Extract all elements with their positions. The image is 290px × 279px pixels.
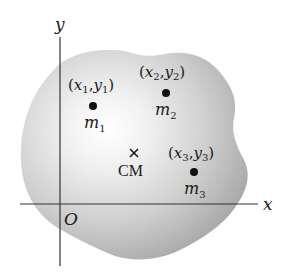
origin-label: O xyxy=(64,209,78,229)
mass-dot-2 xyxy=(162,89,170,97)
x-axis-label: x xyxy=(263,194,273,214)
cm-label: CM xyxy=(118,162,143,179)
diagram-svg: y x O (x1,y1) m1 (x2,y2) m2 (x3, xyxy=(0,0,290,279)
y-axis-label: y xyxy=(54,14,65,34)
mass-dot-1 xyxy=(89,102,97,110)
center-of-mass-diagram: y x O (x1,y1) m1 (x2,y2) m2 (x3, xyxy=(0,0,290,279)
mass-dot-3 xyxy=(190,168,198,176)
